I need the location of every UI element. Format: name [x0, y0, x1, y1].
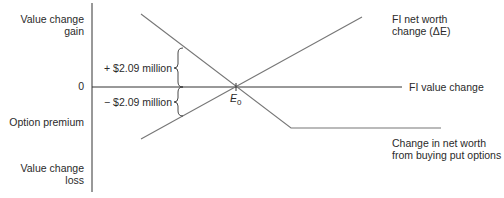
- loss-label-line1: Value change: [21, 162, 84, 174]
- gain-label-line2: gain: [21, 25, 84, 37]
- put-options-line2: from buying put options: [392, 149, 501, 161]
- put-options-line1: Change in net worth: [392, 137, 501, 149]
- value-change-loss-label: Value change loss: [21, 162, 84, 186]
- value-change-gain-label: Value change gain: [21, 13, 84, 37]
- equilibrium-letter: E: [230, 92, 237, 104]
- put-options-label: Change in net worth from buying put opti…: [392, 137, 501, 161]
- fi-net-worth-line: [141, 17, 362, 139]
- loss-brace: [174, 87, 183, 116]
- fi-value-change-label: FI value change: [409, 81, 484, 93]
- loss-amount-label: − $2.09 million: [104, 96, 172, 108]
- fi-net-worth-label: FI net worth change (ΔE): [392, 13, 450, 37]
- equilibrium-subscript: 0: [237, 98, 241, 107]
- fi-net-worth-line1: FI net worth: [392, 13, 450, 25]
- equilibrium-label: E0: [230, 92, 241, 109]
- fi-net-worth-line2: change (ΔE): [392, 25, 450, 37]
- gain-brace: [174, 48, 183, 87]
- zero-label: 0: [78, 80, 84, 92]
- loss-label-line2: loss: [21, 174, 84, 186]
- gain-amount-label: + $2.09 million: [104, 62, 172, 74]
- option-premium-label: Option premium: [9, 116, 84, 128]
- gain-label-line1: Value change: [21, 13, 84, 25]
